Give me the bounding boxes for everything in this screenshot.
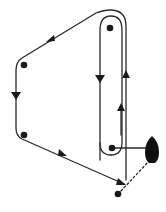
arrow-left-down-icon bbox=[11, 92, 21, 100]
top-mark-dot bbox=[107, 25, 114, 32]
course-diagram bbox=[0, 0, 166, 212]
arrow-top-left-diagonal-icon bbox=[46, 35, 55, 42]
left-upper-mark-dot bbox=[21, 62, 28, 69]
arrow-bottom-diagonal-1-icon bbox=[58, 149, 67, 156]
left-lower-mark-dot bbox=[21, 132, 28, 139]
arrow-inner-up-icon bbox=[117, 103, 125, 111]
boat-icon bbox=[145, 136, 159, 163]
arrow-bottom-diagonal-2-icon bbox=[116, 178, 126, 185]
arrow-outer-up-icon bbox=[122, 70, 130, 78]
finish-mark-dot bbox=[115, 191, 122, 198]
outer-course-path bbox=[16, 10, 126, 184]
bottom-right-mark-dot bbox=[109, 145, 116, 152]
inner-loop-path bbox=[100, 16, 122, 160]
arrow-inner-down-icon bbox=[95, 75, 105, 83]
boat-to-finish-dotted-line bbox=[120, 160, 150, 192]
